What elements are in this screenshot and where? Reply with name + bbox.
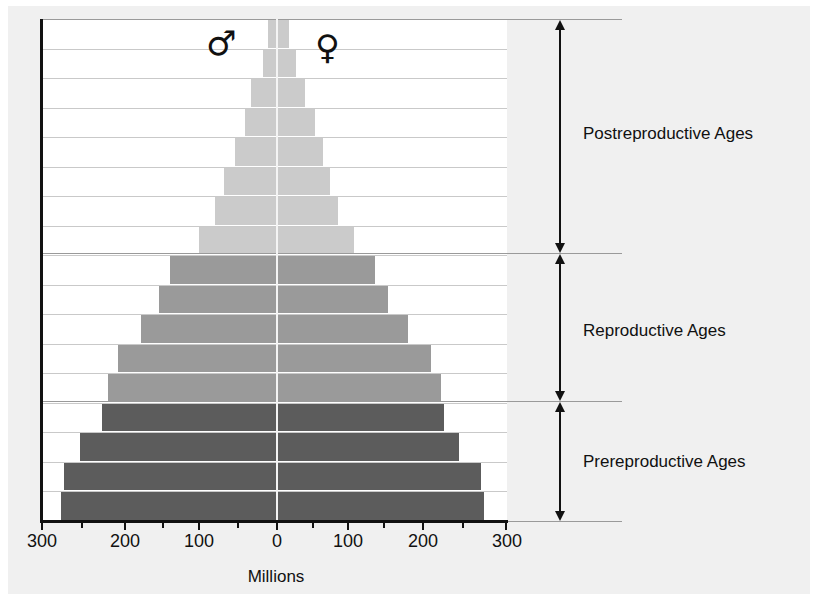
male-bar <box>61 492 277 520</box>
female-bar <box>277 286 388 313</box>
female-bar <box>277 50 296 77</box>
female-bar <box>277 197 338 225</box>
male-bar <box>64 463 277 490</box>
arrow-up-icon <box>555 254 565 264</box>
male-bar <box>245 109 277 136</box>
female-bar <box>277 79 305 107</box>
male-bar <box>159 286 277 313</box>
male-bar <box>118 345 277 372</box>
male-bar <box>102 404 277 431</box>
male-symbol-icon: ♂ <box>206 26 236 60</box>
female-bar <box>277 492 484 520</box>
arrow-down-icon <box>555 243 565 253</box>
region-boundary-post-repro <box>42 253 622 254</box>
region-boundary-top <box>42 19 622 20</box>
female-bar <box>277 345 431 372</box>
x-tick-label: 100 <box>333 531 363 552</box>
reproductive-span-arrow <box>559 256 561 398</box>
x-axis <box>40 520 508 523</box>
center-divider <box>276 19 278 521</box>
x-tick-label: 300 <box>492 531 522 552</box>
x-tick-mark <box>198 522 200 530</box>
x-tick-mark <box>276 522 278 530</box>
male-bar <box>170 256 277 284</box>
reproductive-label: Reproductive Ages <box>583 321 726 341</box>
male-bar <box>251 79 277 107</box>
female-bar <box>277 463 481 490</box>
arrow-up-icon <box>555 402 565 412</box>
female-bar <box>277 374 441 402</box>
female-bar <box>277 168 330 195</box>
x-axis-title: Millions <box>248 567 305 587</box>
female-bar <box>277 138 323 166</box>
male-bar <box>141 315 277 343</box>
female-bar <box>277 227 354 254</box>
x-tick-mark <box>124 522 126 530</box>
prereproductive-label: Prereproductive Ages <box>583 452 746 472</box>
female-bar <box>277 256 375 284</box>
male-bar <box>215 197 277 225</box>
female-bar <box>277 315 408 343</box>
male-bar <box>235 138 277 166</box>
male-bar <box>199 227 277 254</box>
postreproductive-label: Postreproductive Ages <box>583 124 753 144</box>
postreproductive-span-arrow <box>559 22 561 250</box>
female-bar <box>277 109 315 136</box>
x-tick-mark <box>41 522 43 530</box>
x-tick-label: 100 <box>184 531 214 552</box>
arrow-up-icon <box>555 20 565 30</box>
y-axis <box>40 19 43 523</box>
x-tick-mark <box>505 522 507 530</box>
x-tick-mark <box>422 522 424 530</box>
male-bar <box>108 374 277 402</box>
x-tick-label: 300 <box>27 531 57 552</box>
x-tick-label: 200 <box>408 531 438 552</box>
male-bar <box>80 433 277 461</box>
x-tick-label: 0 <box>272 531 282 552</box>
female-symbol-icon: ♀ <box>315 30 340 64</box>
prereproductive-span-arrow <box>559 404 561 518</box>
female-bar <box>277 433 459 461</box>
x-tick-label: 200 <box>110 531 140 552</box>
female-bar <box>277 20 289 48</box>
x-tick-mark <box>347 522 349 530</box>
arrow-down-icon <box>555 391 565 401</box>
region-boundary-repro-pre <box>42 401 622 402</box>
arrow-down-icon <box>555 511 565 521</box>
female-bar <box>277 404 444 431</box>
male-bar <box>224 168 277 195</box>
male-bar <box>263 50 277 77</box>
